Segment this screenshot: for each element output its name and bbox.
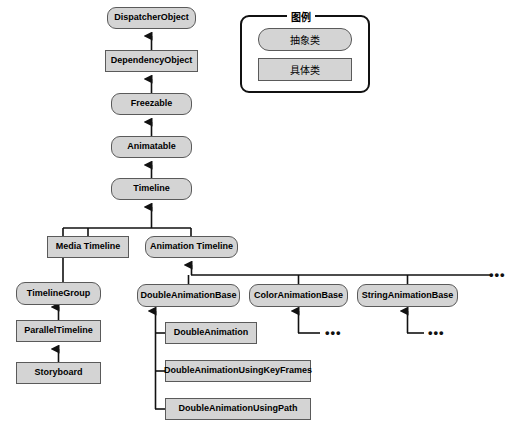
node-double-animation-base[interactable]: DoubleAnimationBase	[137, 284, 240, 307]
node-color-animation-base[interactable]: ColorAnimationBase	[249, 284, 348, 307]
node-freezable[interactable]: Freezable	[111, 93, 192, 115]
node-timeline[interactable]: Timeline	[111, 178, 192, 200]
node-double-animation-using-path[interactable]: DoubleAnimationUsingPath	[165, 398, 311, 420]
node-double-animation[interactable]: DoubleAnimation	[165, 322, 257, 344]
ellipsis-more-color-animation-subclasses: •••	[325, 326, 342, 339]
node-double-animation-using-key-frames[interactable]: DoubleAnimationUsingKeyFrames	[165, 360, 311, 382]
node-media-timeline[interactable]: Media Timeline	[47, 236, 129, 258]
legend-title: 图例	[287, 9, 315, 24]
class-hierarchy-diagram: DispatcherObject DependencyObject Freeza…	[0, 0, 511, 427]
node-animatable[interactable]: Animatable	[111, 136, 192, 158]
node-storyboard[interactable]: Storyboard	[16, 362, 101, 384]
node-dependency-object[interactable]: DependencyObject	[105, 50, 198, 72]
ellipsis-more-animation-timeline-subclasses: •••	[489, 268, 506, 281]
node-string-animation-base[interactable]: StringAnimationBase	[357, 284, 458, 307]
node-parallel-timeline[interactable]: ParallelTimeline	[16, 320, 101, 342]
node-animation-timeline[interactable]: Animation Timeline	[145, 236, 238, 258]
legend-item-concrete-class: 具体类	[258, 58, 352, 81]
node-dispatcher-object[interactable]: DispatcherObject	[107, 7, 196, 29]
node-timeline-group[interactable]: TimelineGroup	[16, 282, 101, 305]
ellipsis-more-string-animation-subclasses: •••	[428, 326, 445, 339]
legend-item-abstract-class: 抽象类	[258, 28, 352, 51]
legend-container	[240, 15, 370, 93]
